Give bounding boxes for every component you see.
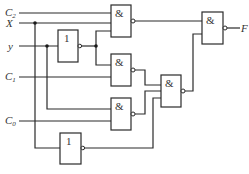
- input-label-c0: C0: [5, 114, 16, 128]
- svg-text:1: 1: [64, 32, 70, 44]
- inversion-bubble: [131, 68, 135, 72]
- junction-dot: [94, 44, 98, 48]
- inversion-bubble: [81, 146, 85, 150]
- logic-circuit-diagram: C2 X y C1 C0: [0, 0, 249, 174]
- svg-text:&: &: [115, 7, 124, 19]
- svg-text:1: 1: [66, 135, 72, 147]
- inversion-bubble: [131, 112, 135, 116]
- svg-text:C0: C0: [5, 114, 16, 128]
- not-gate-1: 1: [58, 30, 82, 62]
- svg-text:y: y: [7, 40, 13, 52]
- nand-gate-1: &: [111, 5, 135, 37]
- junction-dot: [45, 44, 49, 48]
- inversion-bubble: [181, 89, 185, 93]
- nand-gate-2: &: [111, 54, 135, 86]
- svg-text:&: &: [115, 56, 124, 68]
- inversion-bubble: [78, 44, 82, 48]
- inversion-bubble: [131, 19, 135, 23]
- inversion-bubble: [223, 26, 227, 30]
- svg-text:&: &: [165, 77, 174, 89]
- output-label-f: F: [240, 22, 248, 34]
- svg-text:C1: C1: [5, 70, 16, 84]
- input-label-c1: C1: [5, 70, 16, 84]
- nand-gate-5: &: [202, 12, 227, 44]
- input-label-y: y: [7, 40, 13, 52]
- svg-text:&: &: [115, 100, 124, 112]
- nand-gate-3: &: [111, 98, 135, 130]
- svg-text:X: X: [5, 17, 14, 29]
- nand-gate-4: &: [161, 75, 185, 107]
- svg-text:&: &: [206, 14, 215, 26]
- input-label-x: X: [5, 17, 14, 29]
- circuit-svg: C2 X y C1 C0: [0, 0, 249, 174]
- junction-dot: [33, 21, 37, 25]
- not-gate-2: 1: [60, 133, 85, 164]
